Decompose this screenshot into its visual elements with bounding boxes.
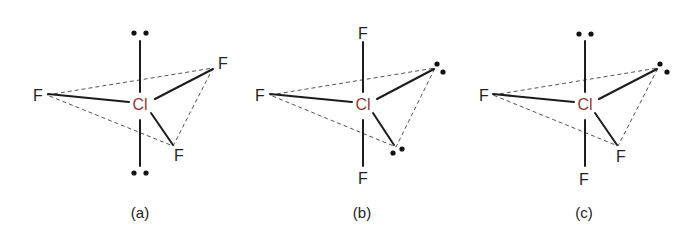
bond-lower-right xyxy=(373,113,394,145)
atom-f-left: F xyxy=(479,87,489,104)
lone-pair-top xyxy=(576,31,593,36)
bond-left xyxy=(48,94,129,102)
equatorial-plane-outline xyxy=(47,68,213,146)
atom-f-bottom: F xyxy=(358,170,368,187)
lone-pair-top xyxy=(131,30,148,35)
bond-lower-right xyxy=(151,113,173,145)
bond-left xyxy=(493,94,574,102)
panel-b: Cl F F F (b) xyxy=(255,25,445,221)
bond-upper-right xyxy=(599,69,657,99)
bond-upper-right xyxy=(377,69,434,99)
lone-pair-upper-right xyxy=(434,61,445,74)
bond-left xyxy=(270,94,352,102)
atom-f-left: F xyxy=(33,87,43,104)
panel-a: Cl F F F (a) xyxy=(33,30,228,221)
central-atom-cl: Cl xyxy=(355,96,370,113)
atom-f-upper-right: F xyxy=(218,55,228,72)
central-atom-cl: Cl xyxy=(577,96,592,113)
clf3-geometry-diagram: Cl F F F (a) Cl F F F (b) xyxy=(0,0,688,239)
lone-pair-lower-right xyxy=(390,146,404,155)
panel-c: Cl F F F (c) xyxy=(479,31,669,221)
atom-f-top: F xyxy=(358,25,368,42)
bond-lower-right xyxy=(595,113,617,145)
atom-f-left: F xyxy=(255,87,265,104)
caption-c: (c) xyxy=(575,204,593,221)
lone-pair-bottom xyxy=(131,170,148,175)
equatorial-plane-outline xyxy=(493,68,658,146)
caption-b: (b) xyxy=(353,204,371,221)
bond-upper-right xyxy=(155,69,213,99)
atom-f-lower-right: F xyxy=(616,148,626,165)
lone-pair-upper-right xyxy=(657,61,669,74)
atom-f-lower-right: F xyxy=(174,147,184,164)
central-atom-cl: Cl xyxy=(132,96,147,113)
equatorial-plane-outline xyxy=(270,68,435,147)
atom-f-bottom: F xyxy=(579,171,589,188)
caption-a: (a) xyxy=(131,204,149,221)
